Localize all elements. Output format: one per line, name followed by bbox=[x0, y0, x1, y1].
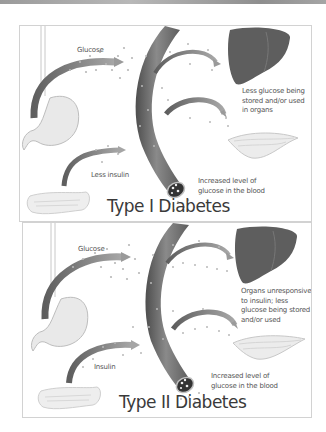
liver-icon bbox=[228, 28, 290, 85]
glucose-label: Glucose bbox=[78, 245, 105, 255]
panel-title: Type II Diabetes bbox=[119, 392, 246, 412]
insulin-label: Less insulin bbox=[91, 171, 129, 181]
pancreas-icon bbox=[38, 387, 100, 409]
panel-title: Type I Diabetes bbox=[107, 196, 230, 216]
muscle-icon bbox=[228, 133, 298, 158]
organs-effect-label: Less glucose being stored and/or used in… bbox=[242, 87, 312, 116]
blood-glucose-label: Increased level of glucose in the blood bbox=[198, 177, 272, 196]
liver-icon bbox=[235, 227, 297, 284]
top-gray-strip bbox=[0, 0, 326, 4]
stomach-icon bbox=[31, 297, 87, 351]
panel-type-2-diabetes: Glucose Insulin Organs unresponsive to i… bbox=[22, 222, 312, 418]
pancreas-icon bbox=[27, 192, 89, 214]
muscle-icon bbox=[233, 336, 305, 359]
insulin-arrow-icon bbox=[64, 150, 120, 186]
glucose-label: Glucose bbox=[77, 46, 104, 56]
arrow-to-muscle-icon bbox=[173, 312, 235, 329]
insulin-label: Insulin bbox=[94, 363, 116, 373]
stomach-icon bbox=[22, 96, 78, 150]
blood-glucose-label: Increased level of glucose in the blood bbox=[211, 372, 285, 391]
arrow-to-muscle-icon bbox=[166, 100, 224, 114]
panel-type-1-diabetes: Glucose Less insulin Less glucose being … bbox=[19, 25, 312, 222]
organs-effect-label: Organs unresponsive to insulin; less glu… bbox=[241, 287, 312, 325]
